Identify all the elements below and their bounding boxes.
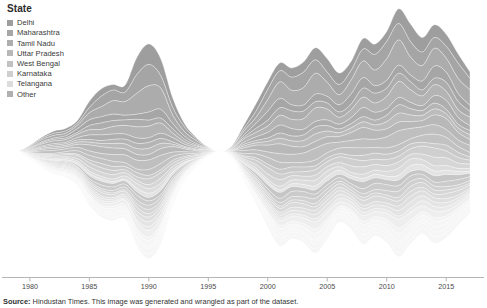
- source-text: Hindustan Times. This image was generate…: [31, 297, 299, 306]
- legend-items: DelhiMaharashtraTamil NaduUttar PradeshW…: [7, 18, 64, 99]
- x-tick-1995: 1995: [200, 282, 216, 291]
- legend-item-telangana[interactable]: Telangana: [7, 79, 64, 89]
- legend-item-label: Karnataka: [17, 69, 52, 78]
- streamgraph-svg: [0, 0, 487, 278]
- legend-item-label: Other: [17, 90, 36, 99]
- chart-plot-area: [0, 0, 487, 278]
- x-tick-1990: 1990: [141, 282, 157, 291]
- legend-item-label: West Bengal: [17, 59, 60, 68]
- x-axis: 19801985199019952000200520102015: [0, 270, 487, 294]
- legend-title: State: [7, 3, 64, 14]
- legend-swatch-icon: [7, 30, 13, 36]
- legend-item-maharashtra[interactable]: Maharashtra: [7, 28, 64, 38]
- x-tick-2005: 2005: [319, 282, 335, 291]
- legend-item-label: Tamil Nadu: [17, 39, 55, 48]
- legend-item-tamil-nadu[interactable]: Tamil Nadu: [7, 38, 64, 48]
- legend-item-delhi[interactable]: Delhi: [7, 18, 64, 28]
- x-axis-line: [0, 270, 487, 294]
- legend-item-karnataka[interactable]: Karnataka: [7, 69, 64, 79]
- legend-swatch-icon: [7, 61, 13, 67]
- legend-swatch-icon: [7, 50, 13, 56]
- legend-item-label: Uttar Pradesh: [17, 49, 64, 58]
- x-tick-2010: 2010: [379, 282, 395, 291]
- legend-item-west-bengal[interactable]: West Bengal: [7, 59, 64, 69]
- source-label: Source:: [3, 297, 31, 306]
- x-tick-1985: 1985: [81, 282, 97, 291]
- streamgraph-visualization: State DelhiMaharashtraTamil NaduUttar Pr…: [0, 0, 487, 308]
- source-caption: Source: Hindustan Times. This image was …: [3, 297, 487, 307]
- legend: State DelhiMaharashtraTamil NaduUttar Pr…: [7, 3, 64, 100]
- legend-swatch-icon: [7, 81, 13, 87]
- legend-swatch-icon: [7, 91, 13, 97]
- legend-swatch-icon: [7, 71, 13, 77]
- legend-item-label: Maharashtra: [17, 28, 60, 37]
- legend-swatch-icon: [7, 40, 13, 46]
- legend-item-other[interactable]: Other: [7, 89, 64, 99]
- x-tick-2015: 2015: [438, 282, 454, 291]
- x-tick-2000: 2000: [260, 282, 276, 291]
- legend-item-label: Delhi: [17, 18, 34, 27]
- x-tick-1980: 1980: [22, 282, 38, 291]
- legend-item-uttar-pradesh[interactable]: Uttar Pradesh: [7, 49, 64, 59]
- legend-swatch-icon: [7, 20, 13, 26]
- legend-item-label: Telangana: [17, 79, 52, 88]
